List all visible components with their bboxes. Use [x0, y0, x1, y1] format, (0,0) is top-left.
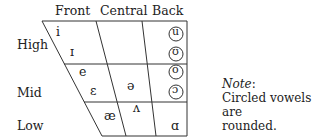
vowel-ae: æ	[104, 108, 116, 123]
column-central: Central	[100, 3, 147, 18]
note-label: Note	[222, 77, 252, 91]
vowel-uh: ʊ	[172, 45, 179, 58]
vowel-eh: ɛ	[90, 83, 96, 98]
vowel-e: e	[79, 64, 86, 79]
note-text-line2: rounded.	[222, 119, 316, 133]
vowel-schwa: ə	[127, 78, 134, 93]
vowel-wedge: ʌ	[133, 100, 140, 115]
vowel-oh: ɔ	[172, 83, 178, 96]
note-text-line1: Circled vowels are	[222, 91, 316, 119]
vowel-a: ɑ	[171, 118, 179, 133]
vowel-o: o	[172, 63, 179, 76]
row-high: High	[17, 37, 48, 52]
column-back: Back	[152, 3, 183, 18]
row-mid: Mid	[17, 85, 42, 100]
row-low: Low	[17, 118, 44, 133]
vowel-i: i	[56, 24, 60, 39]
note: Note: Circled vowels are rounded.	[222, 77, 316, 133]
column-front: Front	[55, 3, 90, 18]
vowel-ih: ɪ	[70, 44, 74, 59]
vowel-u: u	[172, 25, 179, 38]
